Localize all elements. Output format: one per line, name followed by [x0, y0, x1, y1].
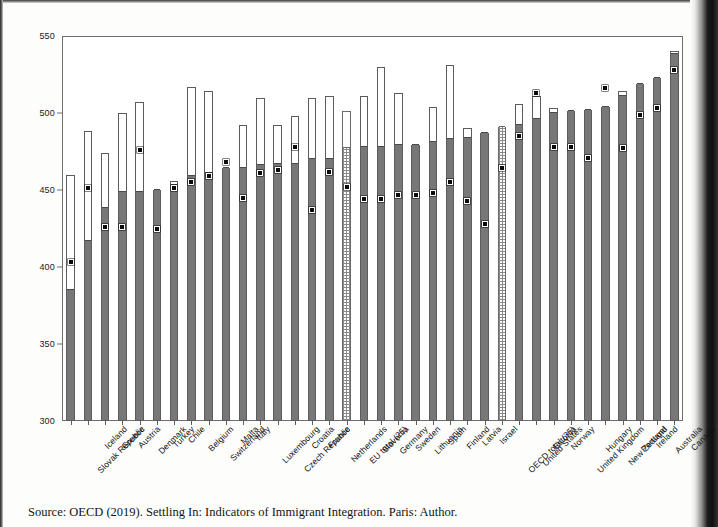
bar-open-column	[394, 93, 403, 421]
bar-shaded-column	[430, 141, 437, 420]
bar-group	[463, 36, 472, 421]
bar-group	[308, 36, 317, 421]
bar-group	[84, 36, 93, 421]
bar-open-column	[308, 98, 317, 421]
data-point-marker	[395, 192, 401, 198]
bar-open-column	[239, 125, 248, 421]
bar-open-column	[653, 78, 662, 421]
y-axis-tick-mark	[57, 344, 62, 345]
data-point-marker	[206, 173, 212, 179]
data-point-marker	[464, 198, 470, 204]
bar-group	[170, 36, 179, 421]
data-point-marker	[654, 105, 660, 111]
data-point-marker	[257, 170, 263, 176]
bar-open-column	[66, 175, 75, 421]
bar-shaded-column	[516, 124, 523, 420]
bar-group	[670, 36, 679, 421]
bar-open-column	[601, 107, 610, 421]
bar-group	[325, 36, 334, 421]
bar-group	[256, 36, 265, 421]
bar-open-column	[515, 104, 524, 421]
bar-open-column	[429, 107, 438, 421]
data-point-marker	[585, 155, 591, 161]
bar-group	[342, 36, 351, 421]
x-axis-category-label: Belgium	[207, 424, 236, 453]
bar-shaded-column	[85, 240, 92, 420]
x-axis-labels: Slovak RepublicIcelandGreeceAustriaDenma…	[62, 421, 683, 501]
data-point-marker	[413, 192, 419, 198]
bar-open-column	[222, 168, 231, 421]
data-point-marker	[344, 184, 350, 190]
bar-group	[66, 36, 75, 421]
bar-shaded-column	[533, 118, 540, 420]
data-point-marker	[119, 224, 125, 230]
bar-open-column	[377, 67, 386, 421]
bar-shaded-column	[654, 77, 661, 420]
bar-shaded-column	[326, 158, 333, 420]
y-axis-tick-mark	[57, 113, 62, 114]
bar-group	[584, 36, 593, 421]
bar-open-column	[256, 98, 265, 421]
bar-shaded-column	[619, 95, 626, 420]
data-point-marker	[620, 145, 626, 151]
data-point-marker	[223, 159, 229, 165]
data-point-marker	[447, 179, 453, 185]
page-left-edge	[0, 0, 3, 527]
bar-open-column	[187, 87, 196, 421]
bar-shaded-column	[188, 175, 195, 420]
bar-group	[394, 36, 403, 421]
bar-group	[239, 36, 248, 421]
bar-open-column	[446, 65, 455, 421]
bar-shaded-column	[412, 144, 419, 420]
data-point-marker	[637, 112, 643, 118]
bar-group	[515, 36, 524, 421]
bar-shaded-column	[671, 53, 678, 420]
bar-open-column	[118, 113, 127, 421]
bar-shaded-column	[602, 106, 609, 420]
data-point-marker	[671, 67, 677, 73]
bar-shaded-column	[223, 167, 230, 420]
y-axis-tick-mark	[57, 267, 62, 268]
data-point-marker	[361, 196, 367, 202]
bar-open-column	[204, 91, 213, 421]
data-point-marker	[309, 207, 315, 213]
bar-open-column	[618, 91, 627, 421]
data-point-marker	[154, 226, 160, 232]
bar-group	[601, 36, 610, 421]
data-point-marker	[292, 144, 298, 150]
data-point-marker	[551, 144, 557, 150]
bar-open-column	[291, 116, 300, 421]
bar-group	[135, 36, 144, 421]
bar-group	[446, 36, 455, 421]
bar-group	[291, 36, 300, 421]
bar-open-column	[325, 96, 334, 421]
bar-group	[101, 36, 110, 421]
data-point-marker	[326, 169, 332, 175]
data-point-marker	[137, 147, 143, 153]
bar-open-column	[411, 145, 420, 421]
bar-shaded-column	[568, 110, 575, 420]
bar-shaded-column	[205, 172, 212, 420]
data-point-marker	[568, 144, 574, 150]
bar-open-column	[342, 111, 351, 421]
bar-group	[618, 36, 627, 421]
bar-group	[549, 36, 558, 421]
bar-group	[273, 36, 282, 421]
bar-group	[222, 36, 231, 421]
bar-group	[187, 36, 196, 421]
data-point-marker	[430, 190, 436, 196]
data-point-marker	[102, 224, 108, 230]
bar-open-column	[170, 181, 179, 421]
bar-shaded-column	[309, 158, 316, 420]
bar-open-column	[463, 128, 472, 421]
data-point-marker	[533, 90, 539, 96]
data-point-marker	[602, 85, 608, 91]
data-point-marker	[378, 196, 384, 202]
bar-group	[480, 36, 489, 421]
bar-open-column	[480, 133, 489, 421]
data-point-marker	[68, 259, 74, 265]
bar-shaded-column	[257, 164, 264, 420]
y-axis-tick-label: 550	[39, 31, 62, 41]
bar-shaded-column	[154, 189, 161, 420]
bar-shaded-column	[464, 137, 471, 420]
